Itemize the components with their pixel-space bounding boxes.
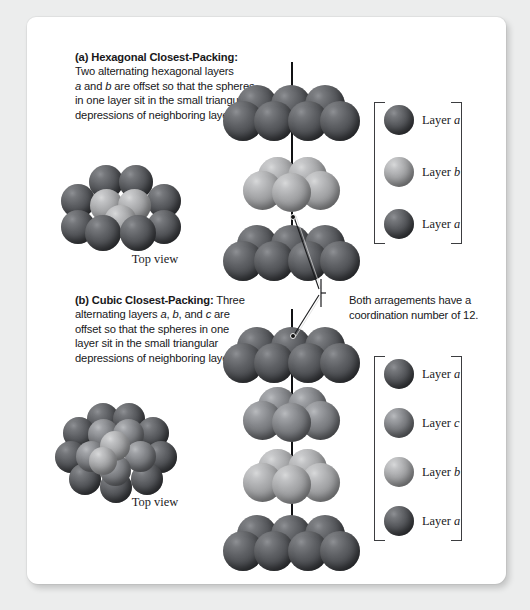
sphere-layer-a xyxy=(320,531,360,571)
panel-a-body-line2-mid: and xyxy=(81,80,105,92)
callout-line1: Both arragements have a xyxy=(349,294,471,306)
legend-sphere-layer-b xyxy=(384,157,414,187)
legend-label-layer-a: Layer a xyxy=(422,514,460,529)
panel-b-heading: Cubic Closest-Packing: xyxy=(92,294,214,306)
panel-b-body-line2-post: are xyxy=(211,308,230,320)
panel-b-body-line5: depressions of neighboring layers. xyxy=(75,352,240,364)
sphere-layer-b xyxy=(272,465,311,504)
panel-b-body-line3: offset so that the spheres in one xyxy=(75,323,229,335)
legend-sphere-layer-b xyxy=(384,457,414,487)
legend-label-layer-a: Layer a xyxy=(422,113,460,128)
legend-label-layer-b: Layer b xyxy=(422,465,460,480)
panel-a-top-view-label: Top view xyxy=(85,252,225,267)
legend-sphere-layer-a xyxy=(384,209,414,239)
legend-label-layer-c: Layer c xyxy=(422,416,460,431)
sphere-layer-a xyxy=(120,215,156,251)
sphere-layer-b xyxy=(89,447,117,475)
panel-b-body-line2-mid2: , and xyxy=(179,308,206,320)
legend-label-layer-a: Layer a xyxy=(422,217,460,232)
legend-label-layer-a: Layer a xyxy=(422,367,460,382)
panel-b-body-line2-pre: alternating layers xyxy=(75,308,160,320)
panel-a-body-line1: Two alternating hexagonal layers xyxy=(75,65,234,77)
panel-b-legend-bracket-left xyxy=(374,356,385,541)
panel-b-body-line1-post: Three xyxy=(213,294,244,306)
figure-card: (a) Hexagonal Closest-Packing: Two alter… xyxy=(27,17,506,584)
panel-a-body-line4: depressions of neighboring layers. xyxy=(75,109,240,121)
legend-sphere-layer-a xyxy=(384,359,414,389)
panel-b-top-view-label: Top view xyxy=(85,495,225,510)
sphere-layer-a xyxy=(320,343,360,383)
sphere-layer-b xyxy=(272,173,311,212)
sphere-layer-a xyxy=(320,241,360,281)
panel-a-body-line2-post: are offset so that the spheres xyxy=(111,80,254,92)
callout-marker-panel-a xyxy=(290,214,296,220)
panel-b-body-line4: layer sit in the small triangular xyxy=(75,337,218,349)
sphere-layer-a xyxy=(320,101,360,141)
sphere-layer-c xyxy=(272,403,311,442)
panel-b-tag: (b) xyxy=(75,294,89,306)
legend-label-layer-b: Layer b xyxy=(422,165,460,180)
panel-a-body-line3: in one layer sit in the small triangular xyxy=(75,94,251,106)
callout-marker-panel-b xyxy=(290,333,296,339)
legend-sphere-layer-c xyxy=(384,408,414,438)
legend-sphere-layer-a xyxy=(384,506,414,536)
callout-text: Both arragements have a coordination num… xyxy=(349,293,499,322)
figure-page: (a) Hexagonal Closest-Packing: Two alter… xyxy=(0,0,530,610)
legend-sphere-layer-a xyxy=(384,105,414,135)
sphere-layer-a xyxy=(85,215,121,251)
panel-a-tag: (a) xyxy=(75,51,88,63)
panel-a-heading: Hexagonal Closest-Packing: xyxy=(91,51,238,63)
callout-line2: coordination number of 12. xyxy=(349,309,478,321)
